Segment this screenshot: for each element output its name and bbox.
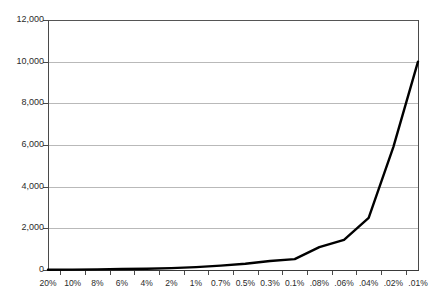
x-tick-label: 6% [116,278,128,288]
gridline [48,20,418,21]
x-tick-label: 0.3% [260,278,279,288]
gridline [48,228,418,229]
x-tick-label: 4% [141,278,153,288]
x-tick-label: 8% [91,278,103,288]
x-tick-mark [184,271,185,275]
y-tick-label: 8,000 [0,97,44,107]
y-tick-label: 2,000 [0,222,44,232]
x-tick-mark [307,271,308,275]
y-tick-label: 12,000 [0,14,44,24]
gridline [48,145,418,146]
x-tick-label: 20% [39,278,56,288]
y-tick-label: 4,000 [0,181,44,191]
x-tick-mark [356,271,357,275]
x-tick-mark [332,271,333,275]
plot-right-border [418,20,419,271]
x-tick-label: 1% [190,278,202,288]
x-tick-label: .02% [384,278,403,288]
x-tick-label: .08% [310,278,329,288]
x-tick-mark [406,271,407,275]
y-tick-label: 10,000 [0,56,44,66]
x-tick-label: 0.1% [285,278,304,288]
x-tick-label: 0.7% [211,278,230,288]
y-tick-label: 6,000 [0,139,44,149]
x-tick-mark [258,271,259,275]
x-tick-mark [85,271,86,275]
data-series-line [0,0,430,304]
line-chart: 02,0004,0006,0008,00010,00012,000 20%10%… [0,0,430,304]
x-tick-mark [233,271,234,275]
x-tick-mark [282,271,283,275]
x-tick-label: 10% [64,278,81,288]
x-tick-mark [110,271,111,275]
x-tick-mark [60,271,61,275]
x-tick-mark [381,271,382,275]
gridline [48,62,418,63]
x-tick-label: 2% [165,278,177,288]
x-tick-mark [134,271,135,275]
gridline [48,103,418,104]
y-tick-label: 0 [0,264,44,274]
x-tick-mark [159,271,160,275]
x-tick-mark [208,271,209,275]
x-tick-label: .06% [334,278,353,288]
x-tick-label: .01% [408,278,427,288]
gridline [48,187,418,188]
x-tick-label: .04% [359,278,378,288]
y-axis-line [48,20,49,271]
x-tick-label: 0.5% [236,278,255,288]
